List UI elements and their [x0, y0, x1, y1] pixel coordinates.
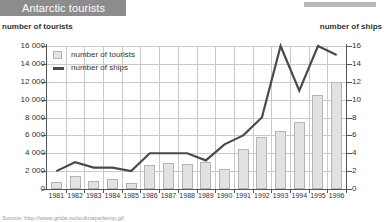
y-axis-tick-mark-left: [42, 189, 47, 190]
y-axis-tick-label-right: 2: [352, 167, 356, 175]
title-bar: Antarctic tourists: [0, 0, 126, 16]
y-axis-tick-label-right: 6: [352, 131, 356, 139]
y-axis-tick-mark-right: [347, 100, 352, 101]
legend-label-tourists: number of tourists: [71, 50, 135, 60]
bar-swatch-icon: [53, 51, 62, 59]
y-axis-tick-mark-right: [347, 135, 352, 136]
y-axis-tick-label-right: 16: [352, 42, 361, 50]
right-axis-caption: number of ships: [320, 22, 382, 32]
chart-page: Antarctic tourists number of tourists nu…: [0, 0, 384, 222]
y-axis-tick-mark-right: [347, 82, 352, 83]
source-note: Source: http://www.grida.no/soilmaps/tem…: [2, 214, 124, 222]
y-axis-tick-label-right: 10: [352, 96, 361, 104]
y-axis-tick-mark-right: [347, 64, 352, 65]
y-axis-tick-label-right: 8: [352, 114, 356, 122]
x-axis-tick-label: 1996: [326, 192, 348, 200]
y-axis-tick-mark-right: [347, 189, 352, 190]
y-axis-tick-mark-right: [347, 153, 352, 154]
left-axis-caption: number of tourists: [2, 22, 73, 32]
y-axis-tick-label-right: 4: [352, 149, 356, 157]
y-axis-tick-label-right: 0: [352, 185, 356, 193]
corner-accent-bar: [304, 2, 376, 7]
y-axis-tick-mark-right: [347, 46, 352, 47]
y-axis-tick-label-right: 14: [352, 60, 361, 68]
y-axis-tick-mark-right: [347, 118, 352, 119]
y-axis-tick-mark-right: [347, 171, 352, 172]
y-axis-tick-label-right: 12: [352, 78, 361, 86]
legend-label-ships: number of ships: [71, 63, 128, 73]
line-swatch-icon: [53, 67, 64, 70]
page-title: Antarctic tourists: [22, 1, 105, 15]
